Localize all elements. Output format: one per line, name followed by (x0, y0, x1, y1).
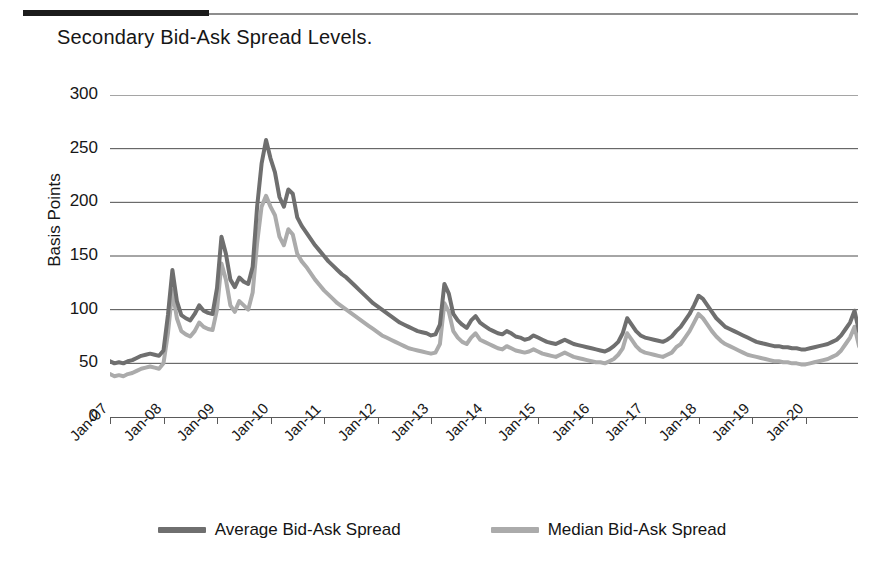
header-rule-thick (23, 10, 209, 16)
x-tick-mark (431, 417, 432, 424)
y-tick-label: 300 (52, 84, 98, 104)
x-tick-mark (806, 417, 807, 424)
x-tick-mark (271, 417, 272, 424)
legend-item-median: Median Bid-Ask Spread (491, 520, 727, 540)
y-tick-label: 100 (52, 299, 98, 319)
header-rule-thin (209, 13, 858, 15)
x-tick-mark (324, 417, 325, 424)
x-tick-mark (485, 417, 486, 424)
series-line (110, 140, 858, 376)
legend-swatch-average (158, 527, 206, 533)
series-lines (110, 125, 858, 376)
chart-title: Secondary Bid-Ask Spread Levels. (57, 26, 372, 49)
y-tick-label: 250 (52, 138, 98, 158)
legend-swatch-median (491, 527, 539, 533)
x-tick-mark (378, 417, 379, 424)
y-tick-label: 200 (52, 191, 98, 211)
legend-label-median: Median Bid-Ask Spread (548, 520, 727, 540)
y-tick-label: 50 (52, 352, 98, 372)
plot-area (110, 95, 858, 417)
chart-canvas (110, 95, 858, 417)
legend-item-average: Average Bid-Ask Spread (158, 520, 401, 540)
x-tick-mark (752, 417, 753, 424)
y-axis-title: Basis Points (45, 135, 65, 305)
x-tick-mark (110, 417, 111, 424)
x-tick-mark (699, 417, 700, 424)
x-tick-mark (538, 417, 539, 424)
series-line (110, 125, 858, 363)
x-tick-mark (164, 417, 165, 424)
x-tick-mark (645, 417, 646, 424)
x-tick-mark (217, 417, 218, 424)
x-tick-mark (592, 417, 593, 424)
chart-figure: Secondary Bid-Ask Spread Levels. Basis P… (0, 0, 884, 574)
y-tick-label: 150 (52, 245, 98, 265)
legend-label-average: Average Bid-Ask Spread (215, 520, 401, 540)
chart-legend: Average Bid-Ask Spread Median Bid-Ask Sp… (0, 520, 884, 540)
